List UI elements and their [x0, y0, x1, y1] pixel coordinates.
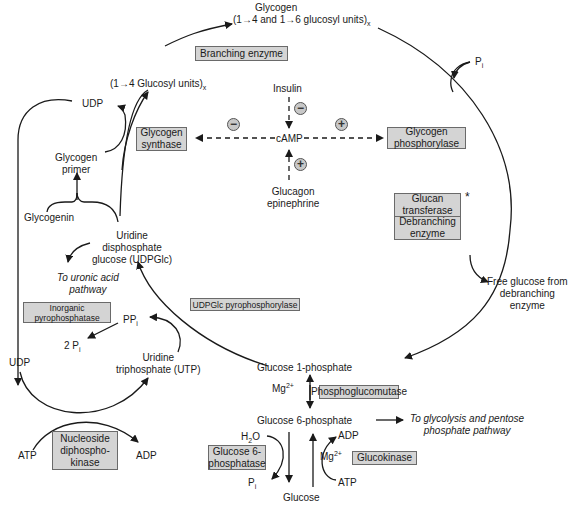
plus-phosphorylase-icon: +: [335, 118, 348, 131]
inorganic-pyrophosphatase-box: Inorganic pyrophosphatase: [23, 302, 111, 323]
utp-label: Uridine triphosphate (UTP): [116, 352, 200, 376]
udpglc-pyrophosphorylase-box: UDPGlc pyrophosphorylase: [190, 298, 300, 311]
udp-top-label: UDP: [82, 98, 103, 110]
camp-label: cAMP: [276, 133, 303, 145]
glucose-6-phosphatase-box: Glucose 6- phosphatase: [208, 445, 266, 470]
udpglc-label: Uridine disphosphate glucose (UDPGlc): [92, 230, 172, 266]
glycogenin-label: Glycogenin: [24, 212, 74, 224]
debranching-enzyme-box: Debranching enzyme: [394, 216, 461, 240]
glucosyl-14-label: (1→4 Glucosyl units)x: [110, 78, 206, 90]
ppi-label: PPi: [123, 314, 138, 326]
atp-right-label: ATP: [338, 477, 357, 489]
glycogen-label: Glycogen: [255, 2, 297, 14]
glycogen-primer-label: Glycogen primer: [55, 152, 97, 176]
minus-insulin-icon: −: [294, 102, 307, 115]
insulin-label: Insulin: [273, 83, 302, 95]
mg-glucokinase-label: Mg2+: [320, 451, 342, 463]
nucleoside-diphosphokinase-box: Nucleoside diphospho- kinase: [52, 431, 118, 470]
udp-left-label: UDP: [9, 357, 30, 369]
asterisk-note: *: [465, 190, 470, 204]
branching-enzyme-box: Branching enzyme: [195, 46, 288, 61]
phosphoglucomutase-box: Phosphoglucomutase: [319, 385, 399, 399]
glucan-transferase-box: Glucan transferase: [394, 193, 461, 217]
uronic-acid-label: To uronic acid pathway: [57, 272, 119, 296]
h2o-label: H2O: [241, 431, 260, 443]
glucose-label: Glucose: [283, 492, 320, 504]
minus-synthase-icon: −: [227, 118, 240, 131]
free-glucose-label: Free glucose from debranching enzyme: [487, 276, 568, 312]
glycogen-units-label: (1→4 and 1→6 glucosyl units)x: [233, 14, 370, 26]
glycogen-synthase-box: Glycogen synthase: [136, 127, 187, 151]
pi-phosphorylase-label: Pi: [475, 56, 483, 68]
adp-right-label: ADP: [338, 430, 359, 442]
adp-left-label: ADP: [136, 450, 157, 462]
pi-phosphatase-label: Pi: [248, 477, 256, 489]
glycogen-phosphorylase-box: Glycogen phosphorylase: [387, 127, 466, 149]
glucagon-label: Glucagon epinephrine: [267, 186, 319, 210]
two-pi-label: 2 Pi: [64, 340, 81, 352]
plus-glucagon-icon: +: [294, 158, 307, 171]
mg-mutase-label: Mg2+: [272, 383, 294, 395]
atp-left-label: ATP: [18, 450, 37, 462]
glucose-1-phosphate-label: Glucose 1-phosphate: [257, 362, 352, 374]
glycolysis-label: To glycolysis and pentose phosphate path…: [410, 413, 524, 437]
glucose-6-phosphate-label: Glucose 6-phosphate: [257, 415, 352, 427]
glucokinase-box: Glucokinase: [352, 451, 417, 465]
